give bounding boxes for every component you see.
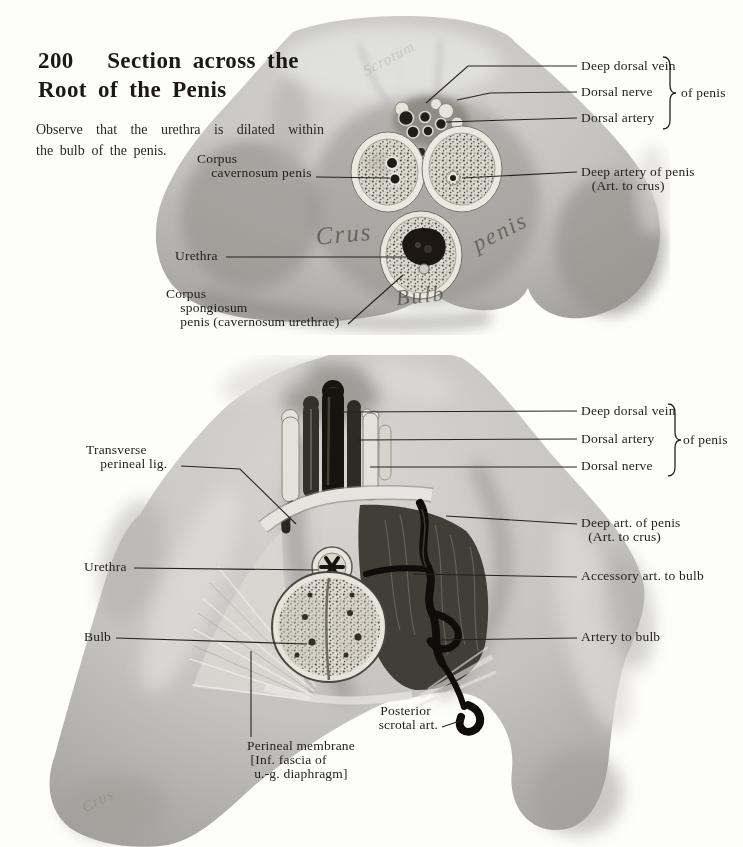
label-posterior-scrotal-art: Posterior scrotal art.	[330, 704, 438, 732]
deep-dorsal-vein-vessel	[322, 388, 344, 500]
label-dorsal-artery-top: Dorsal artery	[581, 111, 654, 125]
label-transverse-perineal-lig: Transverse perineal lig.	[86, 443, 167, 471]
label-dorsal-nerve-bottom: Dorsal nerve	[581, 459, 653, 473]
dorsal-nerve-left	[282, 417, 299, 502]
label-accessory-art-to-bulb: Accessory art. to bulb	[581, 569, 704, 583]
label-deep-artery-of-penis: Deep artery of penis (Art. to crus)	[581, 165, 695, 193]
label-deep-dorsal-vein-bottom: Deep dorsal vein	[581, 404, 676, 418]
label-urethra-top: Urethra	[175, 249, 218, 263]
inline-script-crus: Crus	[315, 218, 374, 250]
label-deep-art-of-penis: Deep art. of penis (Art. to crus)	[581, 516, 681, 544]
dorsal-artery-right	[347, 405, 361, 497]
label-dorsal-artery-bottom: Dorsal artery	[581, 432, 654, 446]
inline-script-bulb: Bulb	[395, 280, 447, 310]
corpus-cavernosum-right-section	[422, 126, 502, 212]
label-corpus-cavernosum: Corpus cavernosum penis	[197, 152, 312, 180]
label-of-penis-top: of penis	[681, 86, 726, 100]
label-bulb-bottom: Bulb	[84, 630, 111, 644]
label-corpus-spongiosum: Corpus spongiosum penis (cavernosum uret…	[166, 287, 339, 330]
label-deep-dorsal-vein-top: Deep dorsal vein	[581, 59, 676, 73]
label-dorsal-nerve-top: Dorsal nerve	[581, 85, 653, 99]
label-of-penis-bottom: of penis	[683, 433, 728, 447]
atlas-page: Crus penis Bulb Scrotum	[0, 0, 743, 847]
label-perineal-membrane: Perineal membrane [Inf. fascia of u.-g. …	[247, 739, 355, 782]
deep-artery-of-penis-vessel	[449, 174, 457, 182]
corpus-cavernosum-left-section	[351, 132, 425, 212]
bulb-section	[272, 572, 386, 682]
page-title: 200 Section across the Root of the Penis	[38, 46, 299, 105]
label-artery-to-bulb: Artery to bulb	[581, 630, 660, 644]
label-urethra-bottom: Urethra	[84, 560, 127, 574]
